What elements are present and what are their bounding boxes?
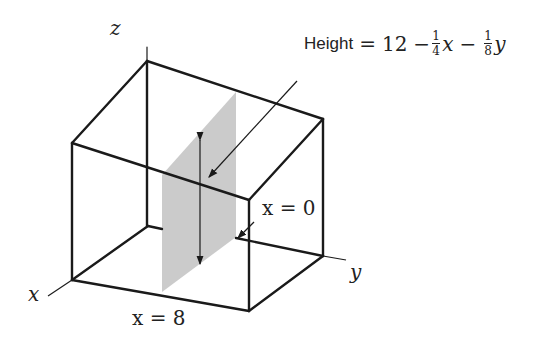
var-x: x: [442, 32, 453, 56]
bottom-left-edge: [72, 226, 148, 280]
y-axis: [323, 256, 346, 260]
top-left-edge: [72, 61, 147, 143]
fraction-2-numerator: 1: [484, 30, 492, 42]
x-zero-pointer-arrow: [238, 222, 254, 238]
equals-sign: =: [359, 32, 376, 56]
x-axis: [48, 280, 72, 296]
height-formula: Height = 12 − 1 4 x − 1 8 y: [304, 30, 505, 57]
fraction-1-denominator: 4: [432, 45, 440, 57]
minus-1: −: [413, 32, 430, 56]
top-right-edge: [249, 119, 323, 200]
fraction-1: 1 4: [432, 30, 440, 57]
x-eight-label: x = 8: [132, 308, 185, 328]
z-axis-label: z: [110, 18, 121, 38]
constant: 12: [382, 32, 407, 56]
x-axis-label: x: [28, 284, 39, 304]
fraction-1-numerator: 1: [432, 30, 440, 42]
diagram-canvas: z x y x = 0 x = 8 Height = 12 − 1 4 x − …: [0, 0, 553, 342]
bottom-right-edge: [249, 256, 323, 311]
var-y: y: [494, 32, 505, 56]
height-word: Height: [304, 34, 353, 54]
minus-2: −: [459, 32, 476, 56]
fraction-2: 1 8: [484, 30, 492, 57]
y-axis-label: y: [350, 262, 361, 282]
fraction-2-denominator: 8: [484, 45, 492, 57]
bottom-back-edge-left: [148, 226, 162, 229]
x-zero-label: x = 0: [262, 198, 315, 218]
